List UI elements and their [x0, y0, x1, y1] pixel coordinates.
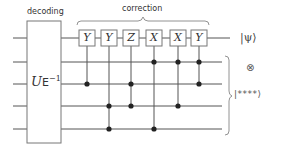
- quantum-circuit: [0, 0, 282, 146]
- control-dots: [84, 59, 201, 131]
- gate-label-y-3: Y: [194, 31, 204, 44]
- tensor-symbol: ⊗: [246, 62, 254, 73]
- gate-label-y-1: Y: [82, 31, 92, 44]
- ancilla-brace: [225, 56, 232, 135]
- gate-label-y-2: Y: [104, 31, 114, 44]
- gate-label-x-1: X: [149, 31, 159, 44]
- output-psi: |ψ⟩: [240, 31, 257, 44]
- correction-label: correction: [122, 4, 162, 13]
- decoder-label: UE−1: [31, 74, 61, 89]
- gate-label-x-2: X: [173, 31, 183, 44]
- decoding-label: decoding: [27, 7, 64, 16]
- output-ancilla: |****⟩: [234, 89, 262, 99]
- correction-brace: [77, 17, 209, 25]
- gate-label-z: Z: [126, 31, 136, 44]
